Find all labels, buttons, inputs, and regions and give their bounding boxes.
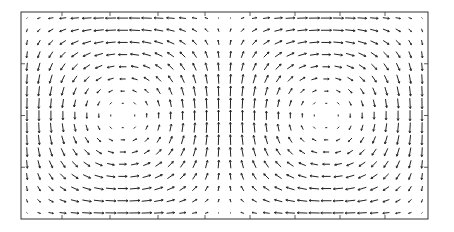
arrowhead-icon xyxy=(327,91,328,92)
vector-arrow xyxy=(26,18,27,19)
vector-arrow xyxy=(73,76,77,82)
arrowhead-icon xyxy=(121,91,122,92)
plot-frame xyxy=(21,12,428,219)
vector-arrow xyxy=(72,52,78,56)
vector-arrow xyxy=(287,65,293,69)
vector-arrow xyxy=(384,64,388,70)
vector-arrow xyxy=(360,150,365,155)
vector-arrow xyxy=(422,212,423,213)
vector-arrow xyxy=(156,65,162,69)
vector-arrow xyxy=(287,162,293,166)
vector-arrow xyxy=(230,18,231,19)
vector-arrow xyxy=(134,102,136,104)
arrowhead-icon xyxy=(146,114,147,115)
vector-arrow xyxy=(84,77,89,82)
vector-arrows xyxy=(26,17,424,214)
vector-arrow xyxy=(396,52,400,58)
vector-arrow xyxy=(396,173,400,179)
vector-arrow xyxy=(60,174,65,179)
vector-arrow xyxy=(61,64,65,70)
arrowhead-icon xyxy=(124,139,125,140)
vector-arrow xyxy=(264,52,269,57)
vector-arrow xyxy=(288,77,293,82)
vector-arrow xyxy=(422,18,423,19)
vector-arrow xyxy=(372,76,376,82)
vector-arrow xyxy=(180,52,185,57)
vector-arrow xyxy=(359,65,365,69)
vector-arrow xyxy=(168,149,172,155)
vector-arrow xyxy=(60,52,65,57)
vector-arrow xyxy=(371,52,377,56)
vector-arrow xyxy=(372,149,376,155)
vector-arrow xyxy=(383,52,388,57)
vector-arrow xyxy=(313,102,315,104)
vector-arrow xyxy=(49,173,53,179)
vector-arrow xyxy=(61,161,65,167)
vector-arrow xyxy=(383,40,389,44)
vector-arrow xyxy=(252,52,256,58)
vector-arrow xyxy=(134,127,136,129)
vector-arrow xyxy=(180,174,185,179)
vector-arrow xyxy=(156,162,162,166)
vector-arrow xyxy=(383,174,388,179)
vector-arrow xyxy=(264,174,269,179)
vector-arrow xyxy=(168,161,173,166)
vector-arrow xyxy=(84,162,90,166)
vector-arrow xyxy=(359,162,365,166)
vector-arrow xyxy=(276,64,281,69)
vector-arrow xyxy=(72,161,77,166)
vector-arrow xyxy=(167,174,173,178)
vector-arrow xyxy=(276,76,280,82)
vector-arrow xyxy=(180,40,186,44)
vector-arrow xyxy=(218,212,219,213)
vector-arrow xyxy=(275,52,281,56)
vector-arrow xyxy=(230,212,231,213)
vector-arrow xyxy=(264,161,268,167)
vector-arrow xyxy=(263,187,269,191)
vector-arrow xyxy=(60,40,66,44)
vector-arrow xyxy=(252,173,256,179)
vector-arrow xyxy=(275,174,281,178)
vector-arrow xyxy=(263,40,269,44)
vector-arrow xyxy=(168,76,172,82)
arrowhead-icon xyxy=(98,116,99,117)
vector-arrow xyxy=(313,127,315,129)
vector-arrow xyxy=(371,174,377,178)
vector-arrow xyxy=(360,77,365,82)
vector-arrow xyxy=(180,187,186,191)
vector-arrow xyxy=(60,187,66,191)
vector-field-plot xyxy=(0,0,454,232)
vector-arrow xyxy=(218,18,219,19)
vector-arrow xyxy=(49,52,53,58)
vector-arrow xyxy=(84,65,90,69)
vector-arrow xyxy=(180,64,184,70)
arrowhead-icon xyxy=(350,116,351,117)
axis-ticks xyxy=(21,12,428,219)
vector-arrow xyxy=(110,127,112,129)
vector-arrow xyxy=(337,127,339,129)
vector-arrow xyxy=(384,161,388,167)
vector-arrow xyxy=(168,64,173,69)
vector-arrow xyxy=(337,102,339,104)
vector-arrow xyxy=(167,52,173,56)
vector-arrow xyxy=(156,77,161,82)
vector-arrow xyxy=(72,174,78,178)
vector-arrow xyxy=(110,102,112,104)
vector-arrow xyxy=(371,161,376,166)
vector-arrow xyxy=(84,150,89,155)
vector-arrow xyxy=(371,64,376,69)
vector-arrow xyxy=(193,52,197,58)
vector-arrow xyxy=(193,173,197,179)
vector-arrow xyxy=(276,149,280,155)
vector-arrow xyxy=(73,149,77,155)
vector-arrow xyxy=(156,150,161,155)
vector-arrow xyxy=(288,150,293,155)
vector-arrow xyxy=(383,187,389,191)
vector-arrow xyxy=(264,64,268,70)
arrowhead-icon xyxy=(302,114,303,115)
vector-arrow xyxy=(26,212,27,213)
vector-arrow xyxy=(72,64,77,69)
arrowhead-icon xyxy=(324,139,325,140)
vector-arrow xyxy=(276,161,281,166)
vector-arrow xyxy=(180,161,184,167)
